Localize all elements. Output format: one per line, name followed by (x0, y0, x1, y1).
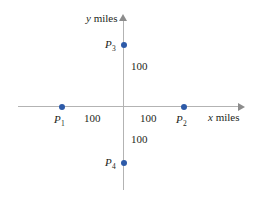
data-point-label-p2-subscript: 2 (183, 119, 187, 128)
coordinate-plane-figure: x miles y miles P1 P2 P3 P4 100 100 100 … (0, 0, 255, 200)
data-point-label-p1: P1 (54, 114, 64, 125)
data-point-p2[interactable] (181, 104, 187, 110)
data-point-label-p1-subscript: 1 (61, 119, 65, 128)
data-point-p1[interactable] (59, 104, 65, 110)
y-axis-label-unit: miles (91, 12, 118, 24)
y-axis-label: y miles (86, 13, 117, 24)
x-axis-label: x miles (208, 112, 239, 123)
distance-label-down: 100 (131, 134, 148, 145)
distance-label-left: 100 (84, 113, 101, 124)
data-point-label-p4-base: P (105, 156, 112, 168)
data-point-label-p2-base: P (176, 113, 183, 125)
distance-label-right: 100 (140, 113, 157, 124)
data-point-label-p3-subscript: 3 (112, 44, 116, 53)
x-axis-label-unit: miles (213, 111, 240, 123)
x-axis-line (18, 106, 240, 107)
data-point-p4[interactable] (121, 160, 127, 166)
x-axis-arrowhead-icon (238, 103, 245, 111)
data-point-label-p2: P2 (176, 114, 186, 125)
data-point-label-p4: P4 (105, 157, 115, 168)
data-point-p3[interactable] (121, 42, 127, 48)
data-point-label-p3: P3 (105, 39, 115, 50)
distance-label-up: 100 (131, 61, 148, 72)
data-point-label-p3-base: P (105, 38, 112, 50)
y-axis-arrowhead-icon (119, 14, 127, 21)
data-point-label-p1-base: P (54, 113, 61, 125)
data-point-label-p4-subscript: 4 (112, 162, 116, 171)
